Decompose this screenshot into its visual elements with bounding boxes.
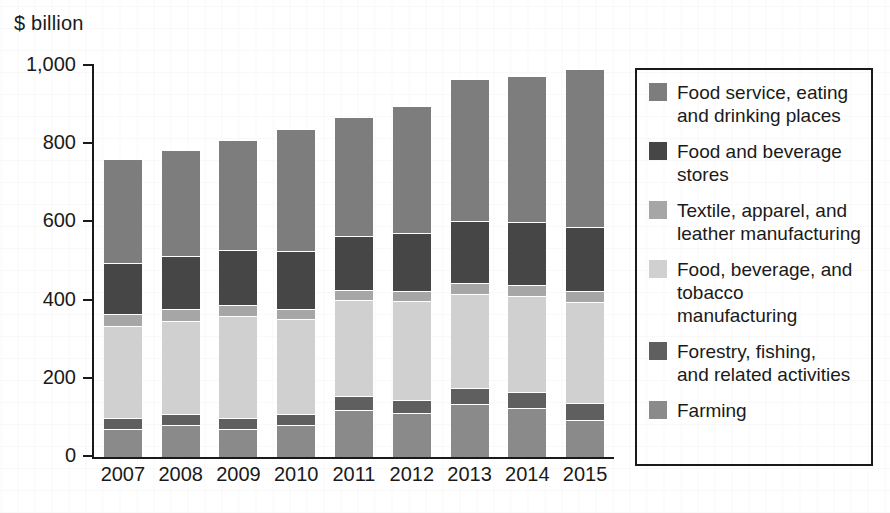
bar-segment[interactable] — [162, 150, 200, 257]
bar-segment[interactable] — [162, 309, 200, 321]
bar-segment[interactable] — [508, 408, 546, 457]
y-tick-mark: 1,000 — [83, 64, 92, 66]
bar-segment[interactable] — [219, 305, 257, 316]
y-tick-mark: 800 — [83, 142, 92, 144]
legend-item[interactable]: Food service, eating and drinking places — [649, 81, 865, 127]
bar-column[interactable] — [566, 66, 604, 457]
y-axis-unit-label: $ billion — [14, 12, 84, 35]
bar-segment[interactable] — [219, 316, 257, 418]
bar-segment[interactable] — [162, 414, 200, 425]
bar-segment[interactable] — [277, 414, 315, 425]
bar-segment[interactable] — [277, 425, 315, 457]
bar-segment[interactable] — [104, 314, 142, 326]
bar-segment[interactable] — [451, 79, 489, 221]
legend-swatch-food-bev-tobacco — [649, 260, 667, 278]
bar-column[interactable] — [508, 66, 546, 457]
y-tick-label: 0 — [65, 445, 76, 465]
y-tick-label: 800 — [43, 132, 76, 152]
legend-swatch-farming — [649, 401, 667, 419]
bar-column[interactable] — [219, 66, 257, 457]
bar-segment[interactable] — [335, 117, 373, 235]
bar-segment[interactable] — [393, 233, 431, 291]
bar-segment[interactable] — [508, 392, 546, 408]
stacked-bar-chart: $ billion 02004006008001,000 20072008200… — [0, 0, 890, 513]
bar-segment[interactable] — [451, 294, 489, 388]
bar-segment[interactable] — [393, 106, 431, 233]
legend-item-label: Food and beverage stores — [677, 140, 842, 186]
bar-segment[interactable] — [566, 291, 604, 302]
chart-legend: Food service, eating and drinking places… — [635, 68, 873, 466]
legend-item-label: Farming — [677, 399, 747, 422]
bar-segment[interactable] — [451, 221, 489, 282]
y-tick-label: 400 — [43, 289, 76, 309]
bar-segment[interactable] — [335, 290, 373, 300]
bar-segment[interactable] — [393, 291, 431, 301]
y-tick-mark: 400 — [83, 299, 92, 301]
bar-segment[interactable] — [393, 413, 431, 457]
bar-segment[interactable] — [508, 296, 546, 392]
bar-column[interactable] — [393, 66, 431, 457]
bar-segment[interactable] — [219, 418, 257, 429]
legend-swatch-textile — [649, 201, 667, 219]
bar-segment[interactable] — [277, 129, 315, 250]
bar-segment[interactable] — [451, 283, 489, 294]
y-tick-mark: 600 — [83, 220, 92, 222]
legend-swatch-food-service — [649, 83, 667, 101]
bar-segment[interactable] — [162, 425, 200, 457]
bar-segment[interactable] — [104, 263, 142, 314]
bar-segment[interactable] — [219, 250, 257, 305]
bar-segment[interactable] — [335, 236, 373, 290]
legend-item-label: Food, beverage, and tobacco manufacturin… — [677, 258, 865, 327]
legend-item[interactable]: Farming — [649, 399, 865, 422]
bar-segment[interactable] — [219, 429, 257, 457]
bar-segment[interactable] — [451, 404, 489, 457]
bars-layer — [92, 66, 612, 457]
bar-segment[interactable] — [162, 256, 200, 309]
bar-segment[interactable] — [508, 222, 546, 285]
legend-item-label: Food service, eating and drinking places — [677, 81, 848, 127]
bar-segment[interactable] — [566, 227, 604, 291]
y-tick-mark: 0 — [83, 455, 92, 457]
bar-segment[interactable] — [566, 403, 604, 420]
bar-segment[interactable] — [277, 251, 315, 309]
legend-swatch-forestry — [649, 342, 667, 360]
bar-segment[interactable] — [277, 309, 315, 319]
bar-column[interactable] — [451, 66, 489, 457]
bar-column[interactable] — [162, 66, 200, 457]
legend-item[interactable]: Food and beverage stores — [649, 140, 865, 186]
bar-segment[interactable] — [335, 410, 373, 457]
bar-segment[interactable] — [335, 396, 373, 411]
bar-segment[interactable] — [104, 159, 142, 263]
bar-segment[interactable] — [566, 69, 604, 227]
plot-area: 02004006008001,000 — [92, 66, 612, 457]
bar-segment[interactable] — [219, 140, 257, 251]
legend-item[interactable]: Textile, apparel, and leather manufactur… — [649, 199, 865, 245]
legend-item[interactable]: Food, beverage, and tobacco manufacturin… — [649, 258, 865, 327]
legend-item-label: Forestry, fishing, and related activitie… — [677, 340, 850, 386]
bar-segment[interactable] — [335, 300, 373, 395]
bar-segment[interactable] — [104, 326, 142, 417]
bar-segment[interactable] — [393, 301, 431, 400]
bar-segment[interactable] — [508, 76, 546, 222]
bar-segment[interactable] — [566, 302, 604, 403]
bar-segment[interactable] — [451, 388, 489, 404]
x-tick-label: 2015 — [551, 464, 619, 484]
bar-segment[interactable] — [162, 321, 200, 414]
bar-segment[interactable] — [104, 418, 142, 429]
bar-segment[interactable] — [393, 400, 431, 414]
x-axis-line — [92, 457, 614, 459]
bar-column[interactable] — [335, 66, 373, 457]
y-tick-label: 600 — [43, 210, 76, 230]
bar-column[interactable] — [104, 66, 142, 457]
legend-item[interactable]: Forestry, fishing, and related activitie… — [649, 340, 865, 386]
y-tick-label: 1,000 — [26, 54, 76, 74]
y-tick-mark: 200 — [83, 377, 92, 379]
y-tick-label: 200 — [43, 367, 76, 387]
bar-segment[interactable] — [566, 420, 604, 457]
legend-item-label: Textile, apparel, and leather manufactur… — [677, 199, 861, 245]
bar-column[interactable] — [277, 66, 315, 457]
bar-segment[interactable] — [104, 429, 142, 457]
bar-segment[interactable] — [508, 285, 546, 297]
legend-swatch-food-beverage-stores — [649, 142, 667, 160]
bar-segment[interactable] — [277, 319, 315, 414]
